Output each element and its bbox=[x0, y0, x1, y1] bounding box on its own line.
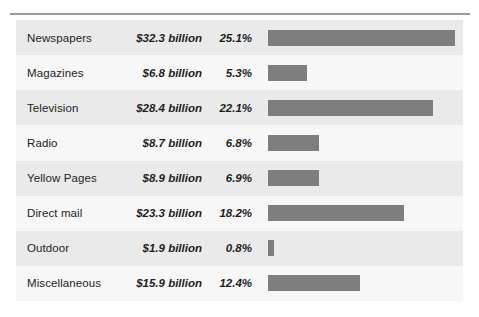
chart-row: Yellow Pages$8.9 billion6.9% bbox=[16, 161, 463, 196]
chart-row: Outdoor$1.9 billion0.8% bbox=[16, 231, 463, 266]
row-amount-value: $8.7 billion bbox=[124, 137, 202, 149]
row-amount-value: $23.3 billion bbox=[124, 207, 202, 219]
row-percent-value: 5.3% bbox=[202, 67, 252, 79]
row-percent-value: 6.8% bbox=[202, 137, 252, 149]
bar-track bbox=[268, 90, 463, 125]
bar-fill bbox=[268, 65, 307, 81]
bar-fill bbox=[268, 170, 319, 186]
bar-track bbox=[268, 231, 463, 266]
bar-fill bbox=[268, 240, 274, 256]
row-category-label: Newspapers bbox=[16, 32, 124, 44]
bar-fill bbox=[268, 100, 433, 116]
row-percent-value: 12.4% bbox=[202, 277, 252, 289]
bar-chart-table: Newspapers$32.3 billion25.1%Magazines$6.… bbox=[16, 20, 463, 301]
bar-track bbox=[268, 55, 463, 90]
row-percent-value: 22.1% bbox=[202, 102, 252, 114]
row-category-label: Television bbox=[16, 102, 124, 114]
bar-fill bbox=[268, 30, 455, 46]
row-amount-value: $28.4 billion bbox=[124, 102, 202, 114]
row-category-label: Magazines bbox=[16, 67, 124, 79]
row-category-label: Miscellaneous bbox=[16, 277, 124, 289]
chart-row: Magazines$6.8 billion5.3% bbox=[16, 55, 463, 90]
row-category-label: Direct mail bbox=[16, 207, 124, 219]
row-percent-value: 0.8% bbox=[202, 242, 252, 254]
chart-row: Direct mail$23.3 billion18.2% bbox=[16, 196, 463, 231]
bar-track bbox=[268, 161, 463, 196]
bar-fill bbox=[268, 205, 404, 221]
chart-row: Television$28.4 billion22.1% bbox=[16, 90, 463, 125]
bar-track bbox=[268, 266, 463, 301]
bar-fill bbox=[268, 135, 319, 151]
row-category-label: Outdoor bbox=[16, 242, 124, 254]
chart-row: Radio$8.7 billion6.8% bbox=[16, 125, 463, 160]
row-amount-value: $6.8 billion bbox=[124, 67, 202, 79]
chart-figure: Newspapers$32.3 billion25.1%Magazines$6.… bbox=[0, 0, 479, 317]
row-amount-value: $15.9 billion bbox=[124, 277, 202, 289]
row-percent-value: 25.1% bbox=[202, 32, 252, 44]
row-amount-value: $32.3 billion bbox=[124, 32, 202, 44]
bar-fill bbox=[268, 275, 360, 291]
chart-row: Newspapers$32.3 billion25.1% bbox=[16, 20, 463, 55]
header-divider-rule bbox=[10, 13, 470, 15]
row-category-label: Radio bbox=[16, 137, 124, 149]
row-category-label: Yellow Pages bbox=[16, 172, 124, 184]
row-percent-value: 6.9% bbox=[202, 172, 252, 184]
bar-track bbox=[268, 125, 463, 160]
row-amount-value: $1.9 billion bbox=[124, 242, 202, 254]
chart-row: Miscellaneous$15.9 billion12.4% bbox=[16, 266, 463, 301]
row-percent-value: 18.2% bbox=[202, 207, 252, 219]
bar-track bbox=[268, 196, 463, 231]
bar-track bbox=[268, 20, 463, 55]
row-amount-value: $8.9 billion bbox=[124, 172, 202, 184]
